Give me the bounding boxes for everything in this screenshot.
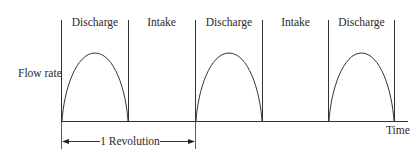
arrow-left-icon	[62, 139, 69, 144]
x-axis-label: Time	[386, 124, 410, 136]
flow-rate-diagram: Discharge Intake Discharge Intake Discha…	[0, 0, 418, 159]
phase-label: Intake	[281, 16, 310, 28]
phase-label: Discharge	[72, 16, 118, 29]
phase-label: Discharge	[206, 16, 252, 29]
discharge-flow-curve	[329, 53, 394, 121]
arrow-right-icon	[188, 139, 195, 144]
phase-label: Intake	[147, 16, 176, 28]
diagram-canvas: Discharge Intake Discharge Intake Discha…	[0, 0, 418, 159]
y-axis-label: Flow rate	[18, 67, 62, 79]
phase-label: Discharge	[338, 16, 384, 29]
discharge-flow-curve	[62, 53, 128, 121]
discharge-flow-curve	[196, 53, 262, 121]
revolution-label: 1 Revolution	[100, 135, 160, 147]
